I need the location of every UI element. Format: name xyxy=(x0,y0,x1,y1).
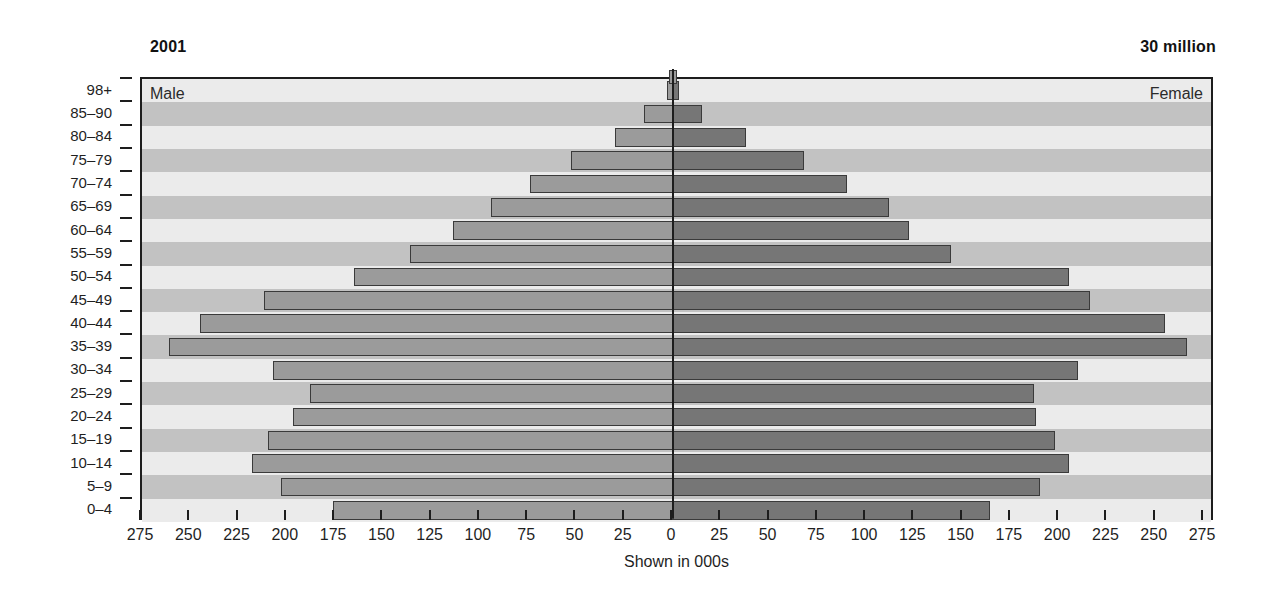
y-tick-mark xyxy=(120,217,132,219)
y-tick-mark xyxy=(120,240,132,242)
x-tick-mark xyxy=(863,510,865,520)
x-tick-label: 225 xyxy=(1092,526,1119,544)
y-tick-mark xyxy=(120,77,132,79)
x-tick-mark xyxy=(525,510,527,520)
bar-male-15-19 xyxy=(268,431,673,450)
y-tick-label-40-44: 40–44 xyxy=(70,313,112,330)
x-tick-label: 125 xyxy=(899,526,926,544)
y-tick-mark xyxy=(120,147,132,149)
x-tick-label: 175 xyxy=(320,526,347,544)
bar-female-35-39 xyxy=(673,338,1187,357)
bar-male-80-84 xyxy=(615,128,673,147)
y-tick-label-85-90: 85–90 xyxy=(70,103,112,120)
bar-female-80-84 xyxy=(673,128,746,147)
y-tick-label-0-4: 0–4 xyxy=(87,500,112,517)
y-tick-label-50-54: 50–54 xyxy=(70,267,112,284)
y-tick-mark xyxy=(120,333,132,335)
x-tick-label: 100 xyxy=(851,526,878,544)
x-tick-mark xyxy=(1153,510,1155,520)
x-tick-label: 175 xyxy=(996,526,1023,544)
male-series-label: Male xyxy=(150,85,185,103)
x-tick-mark xyxy=(815,510,817,520)
bar-male-65-69 xyxy=(491,198,673,217)
x-tick-mark xyxy=(477,510,479,520)
y-tick-label-70-74: 70–74 xyxy=(70,173,112,190)
bar-female-55-59 xyxy=(673,245,951,264)
x-tick-label: 125 xyxy=(416,526,443,544)
bar-male-85-90 xyxy=(644,105,673,124)
bar-male-50-54 xyxy=(354,268,673,287)
bar-male-20-24 xyxy=(293,408,673,427)
x-tick-mark xyxy=(1056,510,1058,520)
x-tick-label: 200 xyxy=(271,526,298,544)
bar-female-20-24 xyxy=(673,408,1036,427)
bar-male-30-34 xyxy=(273,361,673,380)
bar-female-65-69 xyxy=(673,198,889,217)
center-axis-line xyxy=(672,69,674,518)
y-tick-mark xyxy=(120,170,132,172)
x-tick-mark xyxy=(429,510,431,520)
y-tick-label-80-84: 80–84 xyxy=(70,127,112,144)
y-tick-label-65-69: 65–69 xyxy=(70,197,112,214)
y-tick-label-60-64: 60–64 xyxy=(70,220,112,237)
y-tick-label-55-59: 55–59 xyxy=(70,243,112,260)
x-tick-label: 75 xyxy=(807,526,825,544)
y-tick-label-98plus: 98+ xyxy=(87,80,112,97)
bar-female-5-9 xyxy=(673,478,1040,497)
female-series-label: Female xyxy=(1150,85,1203,103)
y-tick-mark xyxy=(120,403,132,405)
bar-male-25-29 xyxy=(310,384,673,403)
y-tick-label-75-79: 75–79 xyxy=(70,150,112,167)
bar-male-60-64 xyxy=(453,221,673,240)
bar-male-5-9 xyxy=(281,478,673,497)
x-tick-label: 100 xyxy=(465,526,492,544)
x-tick-label: 0 xyxy=(667,526,676,544)
y-tick-mark xyxy=(120,473,132,475)
bar-female-75-79 xyxy=(673,151,804,170)
x-tick-label: 250 xyxy=(175,526,202,544)
year-label: 2001 xyxy=(150,38,186,56)
x-tick-label: 25 xyxy=(710,526,728,544)
y-tick-mark xyxy=(120,194,132,196)
x-tick-label: 275 xyxy=(1189,526,1216,544)
y-tick-mark xyxy=(120,264,132,266)
x-tick-mark xyxy=(139,510,141,520)
bar-female-30-34 xyxy=(673,361,1078,380)
x-axis: Shown in 000s 27525022520017515012510075… xyxy=(140,520,1213,560)
y-tick-label-15-19: 15–19 xyxy=(70,430,112,447)
x-tick-label: 150 xyxy=(368,526,395,544)
bar-male-75-79 xyxy=(571,151,673,170)
x-tick-label: 250 xyxy=(1140,526,1167,544)
bar-male-40-44 xyxy=(200,314,673,333)
y-tick-label-35-39: 35–39 xyxy=(70,337,112,354)
x-tick-mark xyxy=(622,510,624,520)
bar-male-10-14 xyxy=(252,454,673,473)
x-tick-label: 275 xyxy=(127,526,154,544)
bar-female-25-29 xyxy=(673,384,1034,403)
x-tick-mark xyxy=(380,510,382,520)
y-tick-label-30-34: 30–34 xyxy=(70,360,112,377)
y-tick-mark xyxy=(120,497,132,499)
y-tick-label-5-9: 5–9 xyxy=(87,477,112,494)
x-tick-mark xyxy=(1008,510,1010,520)
x-tick-mark xyxy=(187,510,189,520)
y-tick-mark xyxy=(120,310,132,312)
bar-female-45-49 xyxy=(673,291,1090,310)
y-axis: 98+85–9080–8475–7970–7465–6960–6455–5950… xyxy=(0,77,132,520)
x-tick-label: 50 xyxy=(759,526,777,544)
y-tick-label-20-24: 20–24 xyxy=(70,407,112,424)
x-tick-mark xyxy=(1104,510,1106,520)
y-tick-mark xyxy=(120,380,132,382)
y-tick-mark xyxy=(120,427,132,429)
population-pyramid-figure: 2001 30 million 98+85–9080–8475–7970–746… xyxy=(0,0,1278,604)
x-tick-mark xyxy=(284,510,286,520)
bar-female-60-64 xyxy=(673,221,909,240)
x-tick-label: 50 xyxy=(566,526,584,544)
bar-male-55-59 xyxy=(410,245,673,264)
bar-female-70-74 xyxy=(673,175,847,194)
y-tick-mark xyxy=(120,357,132,359)
bar-male-35-39 xyxy=(169,338,673,357)
bar-male-70-74 xyxy=(530,175,673,194)
plot-area: Male Female xyxy=(140,77,1213,520)
bar-female-50-54 xyxy=(673,268,1069,287)
